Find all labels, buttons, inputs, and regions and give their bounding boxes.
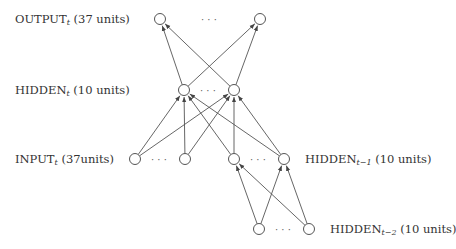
hidden-t-minus-1-layer-subscript: t−1	[356, 158, 371, 167]
connection-arrow	[236, 166, 257, 224]
connection-arrow	[239, 164, 305, 225]
input-unit-node	[130, 154, 141, 165]
hidden-t2-ellipsis: · · ·	[275, 225, 291, 235]
input-unit-node	[180, 154, 191, 165]
hidden-t-unit-node	[229, 85, 240, 96]
hidden-t1-unit-node	[229, 154, 240, 165]
output-ellipsis: · · ·	[201, 15, 217, 25]
hidden-t-layer-units: (10 units)	[70, 83, 130, 97]
hidden-t1-ellipsis: · · ·	[250, 155, 266, 165]
connection-arrow	[184, 97, 185, 154]
hidden-t1-unit-node	[279, 154, 290, 165]
output-layer-units: (37 units)	[70, 12, 130, 26]
hidden-t-minus-2-layer-units: (10 units)	[397, 222, 456, 236]
unit-nodes	[130, 14, 315, 235]
hidden-t-layer-name: HIDDEN	[15, 83, 66, 97]
hidden-t-minus-2-layer-label: HIDDENt−2 (10 units)	[330, 222, 456, 240]
connection-arrow	[138, 96, 180, 155]
connection-edges	[138, 24, 307, 225]
hidden-t-layer-label: HIDDENt (10 units)	[15, 83, 130, 101]
output-unit-node	[155, 14, 166, 25]
input-layer-label: INPUTt (37units)	[15, 152, 114, 170]
hidden-t-ellipsis: · · ·	[200, 86, 216, 96]
connection-arrow	[261, 166, 282, 224]
hidden-t-minus-1-layer-name: HIDDEN	[305, 152, 356, 166]
output-layer-name: OUTPUT	[15, 12, 67, 26]
connection-arrow	[238, 96, 281, 155]
hidden-t2-unit-node	[304, 224, 315, 235]
input-ellipsis: · · ·	[151, 155, 167, 165]
output-unit-node	[255, 14, 266, 25]
input-layer-name: INPUT	[15, 152, 55, 166]
hidden-t-minus-1-layer-units: (10 units)	[372, 152, 432, 166]
connection-arrow	[162, 26, 182, 85]
hidden-t-unit-node	[179, 85, 190, 96]
connection-arrow	[190, 94, 280, 156]
hidden-t-minus-1-layer-label: HIDDENt−1 (10 units)	[305, 152, 431, 170]
connection-arrow	[286, 166, 307, 224]
hidden-t-minus-2-layer-name: HIDDEN	[330, 222, 381, 236]
input-layer-units: (37units)	[58, 152, 114, 166]
connection-arrow	[236, 26, 258, 85]
output-layer-label: OUTPUTt (37 units)	[15, 12, 130, 30]
hidden-t-minus-2-layer-subscript: t−2	[381, 228, 396, 237]
hidden-t2-unit-node	[254, 224, 265, 235]
